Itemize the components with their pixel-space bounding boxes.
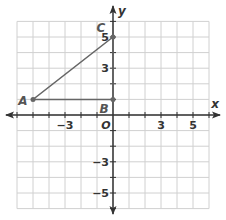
point-label-a: A [17,94,27,108]
x-tick-label: 3 [157,119,165,132]
origin-label: O [101,119,110,132]
y-axis-label: y [118,4,127,18]
point-c [111,35,116,40]
point-label-b: B [99,102,108,116]
y-tick-label: 3 [101,62,109,75]
x-tick-label: −3 [57,119,74,132]
x-axis-label: x [210,97,220,111]
y-tick-label: −3 [92,156,109,169]
point-label-c: C [97,21,106,35]
x-tick-label: 5 [189,119,197,132]
y-tick-label: −5 [92,187,109,200]
coordinate-plane: −33553−3−5xyOABC [0,0,226,220]
point-b [111,97,116,102]
point-a [31,97,36,102]
